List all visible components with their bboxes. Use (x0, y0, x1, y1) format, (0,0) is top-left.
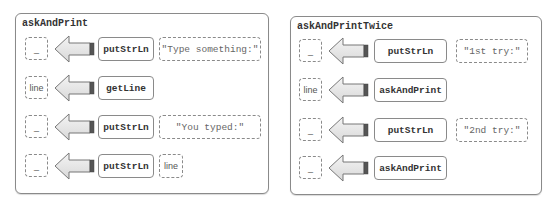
function-box: putStrLn (374, 118, 447, 142)
left-arrow-icon (328, 116, 372, 144)
left-arrow-icon (54, 152, 98, 180)
left-arrow-icon (54, 35, 98, 63)
argument-box: "You typed:" (159, 115, 261, 139)
left-arrow-icon (328, 37, 372, 65)
argument-box: "1st try:" (456, 39, 528, 63)
action-row: line askAndPrint (291, 78, 541, 102)
action-row: line getLine (16, 76, 268, 100)
left-arrow-icon (328, 76, 372, 104)
result-binding: _ (25, 37, 48, 60)
function-box: putStrLn (98, 37, 154, 61)
result-binding: _ (299, 156, 322, 179)
panel-askAndPrint: askAndPrint _ putStrLn "Type something:"… (15, 13, 269, 194)
argument-box: "2nd try:" (456, 118, 528, 142)
argument-box: line (159, 154, 183, 178)
action-row: _ putStrLn "Type something:" (16, 37, 268, 61)
result-binding: _ (299, 39, 322, 62)
function-box: putStrLn (98, 154, 154, 178)
action-row: _ putStrLn "You typed:" (16, 115, 268, 139)
panel-title: askAndPrintTwice (297, 21, 393, 32)
result-binding: line (299, 78, 322, 101)
panel-title: askAndPrint (22, 18, 88, 29)
function-box: putStrLn (374, 39, 447, 63)
result-binding: line (25, 76, 48, 99)
action-row: _ askAndPrint (291, 156, 541, 180)
result-binding: _ (25, 115, 48, 138)
left-arrow-icon (54, 113, 98, 141)
argument-box: "Type something:" (159, 37, 261, 61)
left-arrow-icon (54, 74, 98, 102)
action-row: _ putStrLn line (16, 154, 268, 178)
function-box: putStrLn (98, 115, 154, 139)
function-box: getLine (98, 76, 154, 100)
action-row: _ putStrLn "1st try:" (291, 39, 541, 63)
action-row: _ putStrLn "2nd try:" (291, 118, 541, 142)
result-binding: _ (299, 118, 322, 141)
panel-askAndPrintTwice: askAndPrintTwice _ putStrLn "1st try:" l… (290, 16, 542, 195)
function-box: askAndPrint (374, 78, 447, 102)
result-binding: _ (25, 154, 48, 177)
function-box: askAndPrint (374, 156, 447, 180)
left-arrow-icon (328, 154, 372, 182)
